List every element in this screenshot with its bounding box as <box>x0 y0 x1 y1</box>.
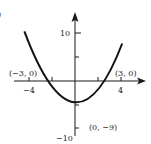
parabola-chart: ) 10 −10 −4 4 (−3, 0) (3, 0) (0, −9) <box>0 0 151 144</box>
y-axis <box>72 12 82 136</box>
y-label-10: 10 <box>60 29 70 38</box>
x-label-4: 4 <box>118 86 123 95</box>
y-label--10: −10 <box>56 134 73 143</box>
x-axis <box>14 77 146 85</box>
point-label-3-0: (3, 0) <box>115 69 137 78</box>
point-label-vertex: (0, −9) <box>89 123 117 132</box>
x-label--4: −4 <box>23 86 35 95</box>
corner-label-fragment: ) <box>0 10 1 19</box>
parabola-curve <box>24 31 122 102</box>
point-label-neg3-0: (−3, 0) <box>9 69 37 78</box>
